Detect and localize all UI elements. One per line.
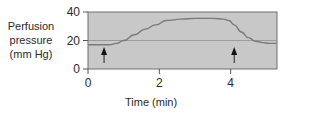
y-tick-label: 40: [67, 5, 81, 19]
y-tick-label: 20: [67, 34, 81, 48]
x-tick-label: 2: [156, 76, 163, 90]
x-axis-title: Time (min): [125, 96, 177, 108]
x-tick-label: 4: [227, 76, 234, 90]
y-tick-label: 0: [73, 62, 80, 76]
x-tick-label: 0: [85, 76, 92, 90]
